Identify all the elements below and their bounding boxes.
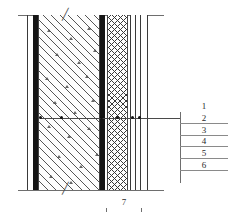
aggregate-mark (79, 165, 83, 168)
legend: 2 3 4 5 6 (180, 112, 228, 183)
aggregate-mark (87, 127, 91, 130)
layer-insulation (107, 15, 128, 190)
aggregate-mark (45, 77, 49, 80)
legend-row-4: 5 (180, 148, 228, 160)
leader-dot-3 (100, 116, 103, 119)
aggregate-mark (69, 181, 73, 184)
bottom-extent-line (18, 190, 164, 191)
legend-number-5: 5 (180, 148, 228, 159)
aggregate-mark (53, 101, 57, 104)
legend-row-1: 2 (180, 112, 228, 124)
wall-section-drawing: ╱ ╱ 1 2 3 4 5 6 (0, 0, 229, 222)
legend-number-1: 1 (180, 101, 228, 112)
legend-number-6: 6 (180, 160, 228, 171)
aggregate-mark (57, 155, 61, 158)
layer-finish-assembly (130, 15, 148, 190)
layer-outer-edge-line (27, 15, 28, 190)
aggregate-mark (47, 125, 51, 128)
legend-number-4: 4 (180, 136, 228, 147)
aggregate-mark (95, 153, 99, 156)
leader-dot-6 (138, 116, 141, 119)
legend-row-2: 3 (180, 124, 228, 136)
legend-number-3: 3 (180, 125, 228, 136)
aggregate-mark (91, 99, 95, 102)
aggregate-mark (49, 175, 53, 178)
layer-reinforced-concrete (38, 15, 100, 190)
aggregate-mark (73, 111, 77, 114)
aggregate-mark (85, 75, 89, 78)
aggregate-mark (65, 85, 69, 88)
aggregate-mark (67, 135, 71, 138)
legend-row-5: 6 (180, 159, 228, 171)
legend-row-3: 4 (180, 136, 228, 148)
layer-finish-line-a (135, 15, 136, 190)
dimension-value: 7 (106, 196, 142, 208)
aggregate-mark (93, 49, 97, 52)
aggregate-mark (47, 29, 51, 32)
layer-finish-line-b (140, 15, 141, 190)
aggregate-mark (87, 27, 91, 30)
layer-finish-line-c (147, 15, 148, 190)
aggregate-mark (69, 37, 73, 40)
leader-dot-4 (116, 116, 119, 119)
legend-number-2: 2 (180, 113, 228, 124)
aggregate-mark (55, 53, 59, 56)
leader-dot-5 (131, 116, 134, 119)
dimension-marker: 7 (106, 196, 142, 212)
layer-membrane-inner (100, 15, 105, 190)
leader-dot-1 (39, 116, 42, 119)
aggregate-mark (77, 61, 81, 64)
break-symbol-top: ╱ (62, 9, 69, 20)
break-symbol-bottom: ╱ (62, 183, 69, 194)
leader-dot-2 (60, 116, 63, 119)
